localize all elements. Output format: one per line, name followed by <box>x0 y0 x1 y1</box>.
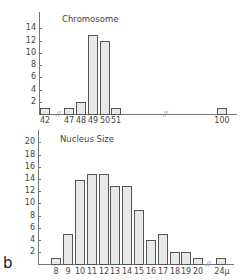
y-tick <box>39 77 42 78</box>
y-tick-label: 16 <box>21 163 35 171</box>
y-tick <box>39 53 42 54</box>
bar-17 <box>158 234 168 265</box>
y-tick <box>38 216 41 217</box>
bar-15 <box>134 210 144 265</box>
y-tick <box>38 228 41 229</box>
bar-14 <box>122 186 132 265</box>
y-tick <box>39 65 42 66</box>
bar-12 <box>99 174 109 265</box>
bar-49 <box>88 35 98 115</box>
x-tick-label: 20 <box>191 268 205 276</box>
y-tick <box>38 179 41 180</box>
x-tick-label: 51 <box>109 117 123 125</box>
bar-9 <box>63 234 73 265</box>
axis-break-mark: // <box>56 111 61 118</box>
bar-42 <box>40 108 50 115</box>
bar-19 <box>181 252 191 265</box>
bar-11 <box>87 174 97 265</box>
y-tick <box>38 142 41 143</box>
y-tick <box>38 203 41 204</box>
y-tick-label: 4 <box>21 236 35 244</box>
bar-20 <box>193 258 203 265</box>
y-tick-label: 2 <box>21 248 35 256</box>
y-tick-label: 20 <box>21 138 35 146</box>
y-tick-label: 12 <box>21 187 35 195</box>
bar-18 <box>170 252 180 265</box>
y-tick-label: 14 <box>21 175 35 183</box>
y-tick-label: 14 <box>22 24 36 32</box>
axis-break-mark: // <box>206 261 211 268</box>
x-tick-label: 42 <box>38 117 52 125</box>
y-tick <box>38 155 41 156</box>
y-tick-label: 8 <box>22 61 36 69</box>
y-tick-label: 18 <box>21 151 35 159</box>
y-tick-label: 4 <box>22 86 36 94</box>
chart-title: Chromosome <box>62 14 118 24</box>
y-axis <box>38 130 39 265</box>
panel-label: b <box>3 254 13 272</box>
y-tick-label: 10 <box>21 199 35 207</box>
chart-title: Nucleus Size <box>60 134 114 144</box>
bar-50 <box>100 41 110 115</box>
y-tick <box>39 102 42 103</box>
y-tick <box>39 28 42 29</box>
bar-47 <box>64 108 74 115</box>
bar-8 <box>51 258 61 265</box>
y-tick <box>38 252 41 253</box>
bar-10 <box>75 180 85 265</box>
y-tick-label: 6 <box>21 224 35 232</box>
bar-51 <box>111 108 121 115</box>
y-tick-label: 2 <box>22 98 36 106</box>
y-tick <box>39 41 42 42</box>
y-tick <box>39 90 42 91</box>
bar-100 <box>217 108 227 115</box>
y-tick-label: 12 <box>22 37 36 45</box>
axis-break-mark: // <box>163 111 168 118</box>
bar-16 <box>146 240 156 265</box>
y-tick-label: 10 <box>22 49 36 57</box>
x-tick-label: 24μ <box>213 268 231 276</box>
y-tick <box>38 240 41 241</box>
x-tick-label: 100 <box>213 117 231 125</box>
bar-13 <box>110 186 120 265</box>
bar-48 <box>76 102 86 115</box>
y-tick-label: 6 <box>22 73 36 81</box>
y-tick-label: 8 <box>21 212 35 220</box>
y-tick <box>38 167 41 168</box>
bar-24 <box>216 258 226 265</box>
y-tick <box>38 191 41 192</box>
